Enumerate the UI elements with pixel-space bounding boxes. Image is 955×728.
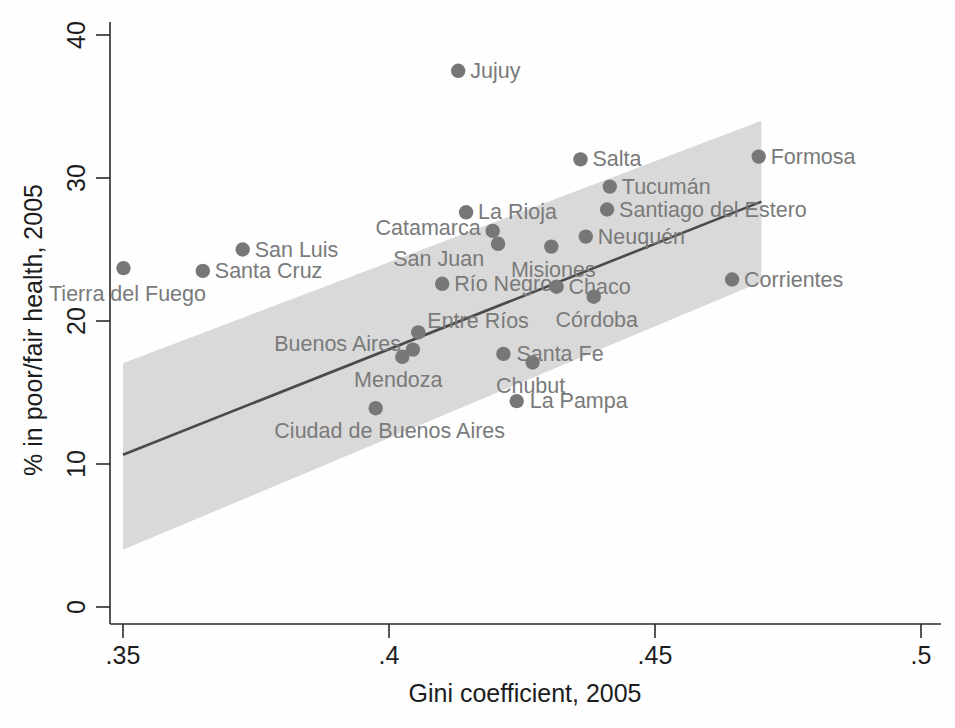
data-point[interactable]: Tierra del Fuego	[49, 261, 206, 306]
data-point-label: San Juan	[393, 247, 484, 271]
x-tick-label: .4	[379, 641, 400, 669]
data-point-marker[interactable]	[486, 224, 500, 238]
data-point[interactable]: Salta	[573, 147, 641, 171]
data-point-marker[interactable]	[603, 179, 617, 193]
data-point[interactable]: Santiago del Estero	[600, 198, 807, 222]
data-point-marker[interactable]	[395, 350, 409, 364]
data-point-marker[interactable]	[579, 229, 593, 243]
data-point[interactable]: Santa Cruz	[196, 259, 323, 283]
data-point-marker[interactable]	[451, 64, 465, 78]
data-point-label: Entre Ríos	[427, 309, 529, 333]
data-point-marker[interactable]	[587, 290, 601, 304]
x-axis-ticks: .35.4.45.5	[106, 624, 932, 669]
data-point-marker[interactable]	[525, 355, 539, 369]
x-tick-label: .45	[638, 641, 673, 669]
data-point-label: Formosa	[771, 145, 856, 169]
y-axis-title: % in poor/fair health, 2005	[19, 184, 47, 476]
data-point[interactable]: San Luis	[236, 238, 339, 262]
data-point-marker[interactable]	[236, 242, 250, 256]
data-point-label: San Luis	[255, 238, 339, 262]
data-point-marker[interactable]	[435, 277, 449, 291]
scatter-plot-svg: 010203040 .35.4.45.5 JujuySaltaFormosaTu…	[0, 0, 955, 728]
data-point-marker[interactable]	[196, 264, 210, 278]
data-point-label: Córdoba	[556, 308, 639, 332]
data-point-marker[interactable]	[725, 272, 739, 286]
x-axis-title: Gini coefficient, 2005	[408, 679, 641, 707]
data-point-marker[interactable]	[369, 401, 383, 415]
data-point[interactable]: Formosa	[752, 145, 856, 169]
data-point-label: La Rioja	[478, 200, 557, 224]
y-tick-label: 20	[62, 307, 90, 335]
data-point-label: Santa Cruz	[215, 259, 323, 283]
y-tick-label: 30	[62, 164, 90, 192]
data-point-marker[interactable]	[496, 347, 510, 361]
x-tick-label: .5	[911, 641, 932, 669]
data-point-marker[interactable]	[549, 280, 563, 294]
y-tick-label: 0	[62, 600, 90, 614]
data-point-label: Santiago del Estero	[619, 198, 807, 222]
data-point-label: Ciudad de Buenos Aires	[274, 419, 505, 443]
data-point[interactable]: Jujuy	[451, 59, 521, 83]
data-point-marker[interactable]	[116, 261, 130, 275]
data-point-label: Catamarca	[376, 216, 481, 240]
x-tick-label: .35	[106, 641, 141, 669]
y-axis-ticks: 010203040	[62, 21, 110, 614]
y-tick-label: 40	[62, 21, 90, 49]
data-point-label: Tucumán	[622, 175, 711, 199]
data-point-marker[interactable]	[411, 325, 425, 339]
data-point-label: Jujuy	[470, 59, 520, 83]
data-point-label: Mendoza	[354, 368, 442, 392]
data-point-label: Corrientes	[744, 268, 843, 292]
data-point-label: Buenos Aires	[274, 332, 401, 356]
data-point-label: Neuquén	[598, 225, 685, 249]
data-point-marker[interactable]	[600, 202, 614, 216]
data-point-marker[interactable]	[752, 149, 766, 163]
data-point-label: Río Negro	[454, 272, 552, 296]
data-point-marker[interactable]	[510, 394, 524, 408]
data-point-marker[interactable]	[544, 239, 558, 253]
data-point-marker[interactable]	[573, 152, 587, 166]
data-point-label: La Pampa	[530, 389, 628, 413]
data-point-label: Tierra del Fuego	[49, 282, 206, 306]
data-point-marker[interactable]	[491, 237, 505, 251]
data-point-label: Salta	[593, 147, 642, 171]
y-tick-label: 10	[62, 450, 90, 478]
chart-figure: 010203040 .35.4.45.5 JujuySaltaFormosaTu…	[0, 0, 955, 728]
